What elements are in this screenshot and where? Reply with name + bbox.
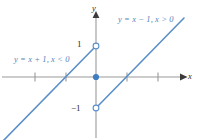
y-axis-label: y (92, 4, 96, 13)
y-tick-label-one: 1 (77, 40, 82, 49)
equation-label-left: y = x + 1, x < 0 (14, 55, 70, 64)
equation-label-right: y = x − 1, x > 0 (118, 15, 174, 24)
origin-filled-point (93, 74, 99, 80)
graph-figure: y = x + 1, x < 0 y = x − 1, x > 0 x y 1 … (0, 0, 198, 140)
x-axis-arrow-icon (180, 74, 188, 81)
line-right-branch (96, 18, 184, 108)
open-point-y-negative-one (93, 105, 99, 111)
x-axis-label: x (188, 72, 192, 81)
open-point-y-one (93, 43, 99, 49)
y-tick-label-negative-one: −1 (71, 104, 81, 113)
